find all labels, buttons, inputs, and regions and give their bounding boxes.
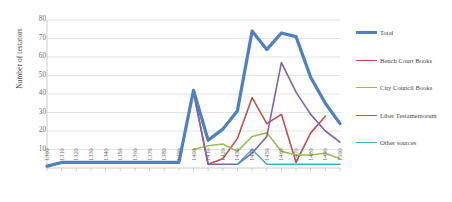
x-axis-tick-label: 1450 <box>264 148 270 182</box>
x-axis-tick-label: 1430 <box>234 148 240 182</box>
x-axis-tick-label: 1380 <box>161 148 167 182</box>
x-axis-tick-label: 1440 <box>249 148 255 182</box>
legend-color-swatch <box>356 115 377 116</box>
legend-color-swatch <box>356 87 377 88</box>
x-axis-tick-label: 1490 <box>322 148 328 182</box>
x-axis-tick-label: 1360 <box>132 148 138 182</box>
legend-item-label: Liber Testamentorum <box>380 112 437 119</box>
x-axis-tick-label: 1340 <box>102 148 108 182</box>
legend-item-label: Total <box>380 29 393 36</box>
x-axis-tick-label: 1330 <box>88 148 94 182</box>
line-chart: Number of testators 8070605040302010 130… <box>0 0 452 202</box>
legend-item[interactable]: Liber Testamentorum <box>356 112 437 119</box>
x-axis-tick-label: 1320 <box>73 148 79 182</box>
x-axis-tick-label: 1480 <box>307 148 313 182</box>
legend-item[interactable]: Other sources <box>356 139 416 146</box>
legend-color-swatch <box>356 31 377 34</box>
legend-color-swatch <box>356 60 377 61</box>
x-axis-tick-label: 1420 <box>220 148 226 182</box>
x-axis-tick-label: 1350 <box>117 148 123 182</box>
chart-legend: TotalBench Court BooksCity Council Books… <box>356 0 452 202</box>
legend-item-label: Other sources <box>380 139 416 146</box>
x-axis-tick-label: 1470 <box>293 148 299 182</box>
x-axis-tick-label: 1410 <box>205 148 211 182</box>
x-axis-tick-label: 1310 <box>58 148 64 182</box>
x-axis-tick-label: 1370 <box>146 148 152 182</box>
legend-item[interactable]: City Council Books <box>356 84 432 91</box>
legend-item-label: City Council Books <box>380 84 432 91</box>
legend-color-swatch <box>356 142 377 143</box>
legend-item-label: Bench Court Books <box>380 57 432 64</box>
x-axis-tick-label: 1300 <box>44 148 50 182</box>
x-axis-tick-label: 1400 <box>190 148 196 182</box>
x-axis-tick-label: 1460 <box>278 148 284 182</box>
legend-item[interactable]: Total <box>356 29 393 36</box>
x-axis-tick-label: 1390 <box>176 148 182 182</box>
legend-item[interactable]: Bench Court Books <box>356 57 432 64</box>
x-axis-tick-label: 1500 <box>337 148 343 182</box>
